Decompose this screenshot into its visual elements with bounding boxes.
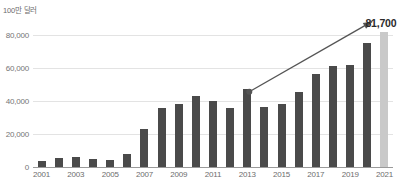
x-axis-tick-label: 2017 [307,170,324,179]
x-axis-tick-label: 2009 [170,170,187,179]
bar-2007 [140,129,148,167]
bar-2005 [106,160,114,167]
bar-2006 [123,154,131,167]
value-callout-label: 81,700 [365,17,396,29]
bar-2019 [346,65,354,167]
bar-2021 [380,32,388,167]
bar-2012 [226,108,234,167]
bar-2004 [89,159,97,167]
bar-2001 [38,161,46,167]
y-axis-tick-label: 40,000 [6,97,29,106]
y-axis-tick-label: 20,000 [6,130,29,139]
x-axis-tick-label: 2021 [376,170,393,179]
bar-2010 [192,96,200,167]
y-axis-tick-label: 0 [25,163,29,172]
bar-2017 [312,74,320,167]
bar-2014 [260,107,268,167]
bar-2009 [175,104,183,167]
x-axis-tick-label: 2019 [342,170,359,179]
gridline [33,35,393,36]
x-axis-tick-label: 2015 [273,170,290,179]
axis-baseline [33,167,393,168]
bar-2013 [243,89,251,167]
x-axis-tick-label: 2005 [102,170,119,179]
bar-2002 [55,158,63,167]
y-axis-tick-label: 60,000 [6,64,29,73]
bar-2015 [278,104,286,167]
bar-chart: 100만 달러 020,00040,00060,00080,000 200120… [0,0,397,196]
bar-2020 [363,43,371,167]
x-axis-tick-label: 2007 [136,170,153,179]
gridline [33,68,393,69]
plot-area: 020,00040,00060,00080,000 20012003200520… [33,22,393,167]
bar-2016 [295,92,303,167]
y-axis-tick-label: 80,000 [6,31,29,40]
x-axis-tick-label: 2011 [205,170,221,179]
bar-2018 [329,66,337,167]
x-axis-tick-label: 2013 [239,170,256,179]
bar-2011 [209,101,217,167]
x-axis-tick-label: 2001 [33,170,50,179]
y-axis-unit-label: 100만 달러 [3,4,37,15]
bar-2008 [158,108,166,167]
x-axis-tick-label: 2003 [67,170,84,179]
bar-2003 [72,157,80,167]
